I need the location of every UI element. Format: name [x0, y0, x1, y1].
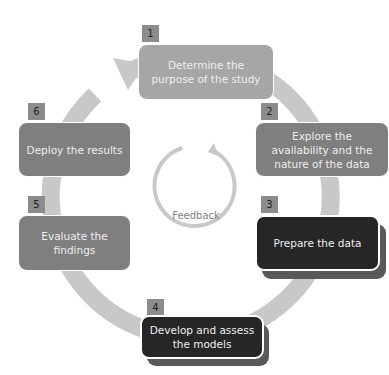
step-6-box: Deploy the results — [18, 122, 131, 177]
step-1-number-badge: 1 — [142, 25, 159, 42]
step-1-box: Determine the purpose of the study — [138, 44, 274, 100]
step-2-label: Explore the availability and the nature … — [262, 129, 382, 171]
step-5-number-badge: 5 — [28, 196, 45, 213]
feedback-arrowhead-icon — [208, 143, 218, 156]
step-3-label: Prepare the data — [274, 236, 362, 250]
step-2-number-badge: 2 — [261, 103, 278, 120]
step-5-box: Evaluate the findings — [18, 215, 131, 271]
step-1-label: Determine the purpose of the study — [145, 58, 267, 86]
step-5-label: Evaluate the findings — [25, 229, 124, 257]
step-4-label: Develop and assess the models — [148, 323, 256, 351]
step-2-box: Explore the availability and the nature … — [255, 122, 389, 177]
process-cycle-diagram: 1 Determine the purpose of the study 2 E… — [0, 0, 389, 375]
step-4-box: Develop and assess the models — [140, 315, 264, 359]
feedback-label: Feedback — [156, 210, 236, 221]
step-4-number-badge: 4 — [147, 299, 164, 316]
step-6-number-badge: 6 — [28, 103, 45, 120]
step-3-number-badge: 3 — [261, 196, 278, 213]
step-3-box: Prepare the data — [255, 215, 380, 271]
step-6-label: Deploy the results — [27, 143, 123, 157]
